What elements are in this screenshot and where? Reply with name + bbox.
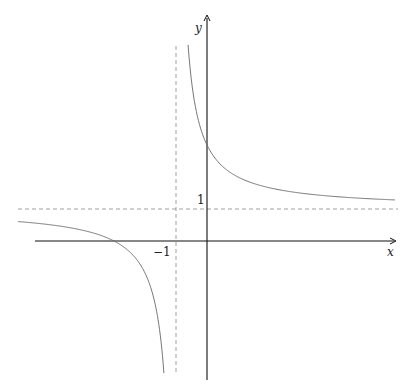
x-axis-label: x [387, 245, 394, 259]
x-tick-label: −1 [153, 245, 171, 259]
y-axis-label: y [194, 21, 202, 35]
left-branch-curve [18, 222, 164, 374]
y-tick-label: 1 [197, 193, 205, 207]
right-branch-curve [188, 45, 395, 200]
chart: x y −1 1 [0, 0, 411, 392]
